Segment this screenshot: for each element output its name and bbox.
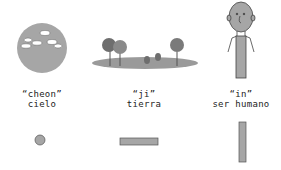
ji-meaning: tierra — [112, 99, 176, 109]
in-romanization: “in” — [205, 89, 277, 99]
dot-symbol — [35, 135, 45, 145]
sky-illustration — [17, 23, 67, 73]
cheon-romanization: “cheon” — [10, 89, 74, 99]
human-illustration — [227, 2, 255, 78]
vertical-bar-symbol — [239, 122, 246, 162]
horizontal-bar-symbol — [120, 138, 158, 145]
earth-illustration — [92, 38, 198, 69]
cheon-meaning: cielo — [10, 99, 74, 109]
ji-romanization: “ji” — [112, 89, 176, 99]
in-meaning: ser humano — [205, 99, 277, 109]
illustrations — [0, 0, 281, 170]
